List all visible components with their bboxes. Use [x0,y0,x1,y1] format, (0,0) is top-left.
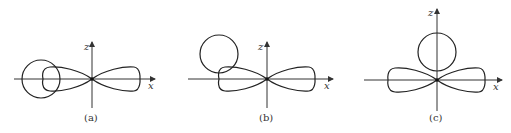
z-label: z [257,41,264,52]
origin-dot [90,77,94,81]
caption-b: (b) [259,112,273,123]
x-label: x [493,81,499,92]
origin-dot [265,77,269,81]
panel-b: z x (b) [188,35,333,123]
orbital-overlap-diagram: z x (a) z x (b) z x (c) [0,0,511,133]
overlap-circle [200,35,238,73]
caption-a: (a) [84,112,98,123]
z-label: z [83,41,90,52]
x-label: x [148,80,154,91]
panel-a: z x (a) [14,41,155,123]
z-label: z [427,7,434,18]
x-label: x [324,80,330,91]
caption-c: (c) [429,112,443,123]
panel-c: z x (c) [364,7,502,123]
origin-dot [435,78,439,82]
